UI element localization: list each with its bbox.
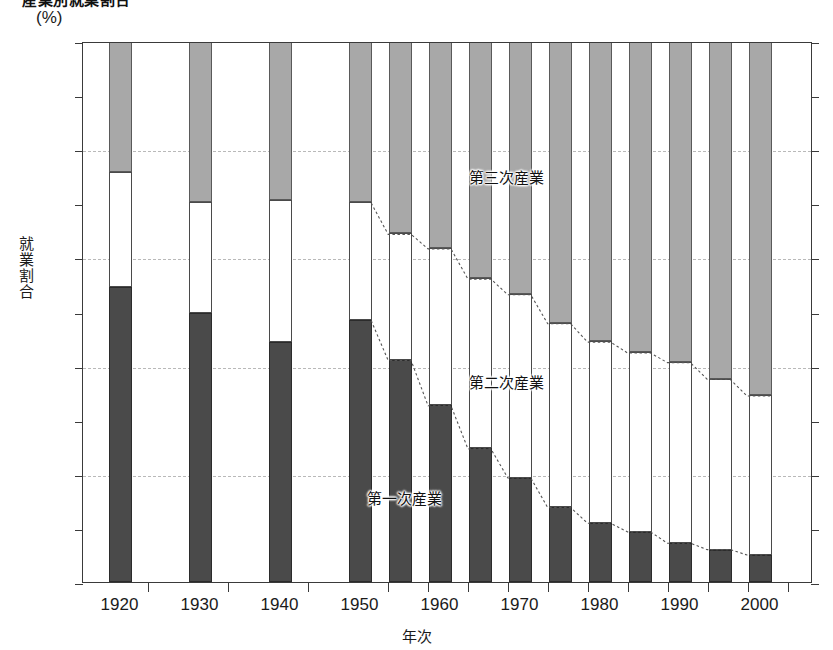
plot-area: 第三次産業第二次産業第一次産業 100806040200 xyxy=(82,42,812,583)
chart-page: 産業別就業割合 (%) 就業割合 第三次産業第二次産業第一次産業 1008060… xyxy=(0,0,833,650)
y-axis-tick xyxy=(75,205,83,206)
segment-primary xyxy=(189,313,212,582)
segment-primary xyxy=(749,555,772,582)
segment-primary xyxy=(629,532,652,582)
segment-tertiary xyxy=(469,43,492,278)
x-axis-tick xyxy=(628,583,629,592)
annotation-2: 第一次産業 xyxy=(367,487,442,508)
x-axis-label-1970: 1970 xyxy=(501,595,539,615)
segment-tertiary xyxy=(629,43,652,352)
segment-secondary xyxy=(589,341,612,523)
segment-tertiary xyxy=(349,43,372,202)
segment-secondary xyxy=(549,323,572,507)
y-axis-tick-right xyxy=(811,314,819,315)
y-axis-tick-right xyxy=(811,422,819,423)
segment-primary xyxy=(269,342,292,582)
y-axis-tick xyxy=(75,314,83,315)
segment-primary xyxy=(549,507,572,582)
segment-secondary xyxy=(429,248,452,405)
x-axis-label-1930: 1930 xyxy=(181,595,219,615)
x-axis-label-1940: 1940 xyxy=(261,595,299,615)
y-axis-title-char: 就 xyxy=(16,236,36,252)
segment-primary xyxy=(669,543,692,582)
plot-inner: 第三次産業第二次産業第一次産業 xyxy=(83,43,811,582)
bar-1965[interactable] xyxy=(469,43,492,582)
segment-secondary xyxy=(109,172,132,287)
x-axis-label-1920: 1920 xyxy=(101,595,139,615)
bar-1990[interactable] xyxy=(669,43,692,582)
x-axis-label-1950: 1950 xyxy=(341,595,379,615)
segment-tertiary xyxy=(189,43,212,202)
segment-secondary xyxy=(709,379,732,550)
segment-secondary xyxy=(669,362,692,543)
bar-1920[interactable] xyxy=(109,43,132,582)
y-axis-tick-right xyxy=(811,151,819,152)
x-axis-tick xyxy=(788,583,789,592)
x-axis-tick xyxy=(148,583,149,592)
bar-1995[interactable] xyxy=(709,43,732,582)
y-axis-tick-right xyxy=(811,43,819,44)
segment-tertiary xyxy=(269,43,292,200)
segment-tertiary xyxy=(429,43,452,248)
segment-secondary xyxy=(389,233,412,360)
y-axis-title: 就業割合 xyxy=(16,236,36,300)
segment-secondary xyxy=(189,202,212,313)
bar-1985[interactable] xyxy=(629,43,652,582)
segment-secondary xyxy=(349,202,372,320)
segment-primary xyxy=(509,478,532,582)
segment-tertiary xyxy=(669,43,692,362)
bar-2000[interactable] xyxy=(749,43,772,582)
segment-primary xyxy=(109,287,132,582)
y-axis-tick-right xyxy=(811,205,819,206)
y-axis-unit-label: (%) xyxy=(36,8,62,28)
x-axis-tick xyxy=(748,583,749,592)
y-axis-tick xyxy=(75,422,83,423)
x-axis-label-1960: 1960 xyxy=(421,595,459,615)
x-axis-label-1990: 1990 xyxy=(661,595,699,615)
x-axis-label-1980: 1980 xyxy=(581,595,619,615)
segment-tertiary xyxy=(109,43,132,172)
x-axis-tick xyxy=(308,583,309,592)
x-axis-tick xyxy=(588,583,589,592)
y-axis-tick-right xyxy=(811,368,819,369)
segment-primary xyxy=(469,448,492,582)
x-axis-tick xyxy=(428,583,429,592)
y-axis-tick xyxy=(75,43,83,44)
y-axis-tick xyxy=(75,151,83,152)
segment-secondary xyxy=(469,278,492,448)
x-axis-tick xyxy=(708,583,709,592)
x-axis-tick xyxy=(468,583,469,592)
bar-1970[interactable] xyxy=(509,43,532,582)
y-axis-tick xyxy=(75,530,83,531)
y-axis-title-char: 割 xyxy=(16,268,36,284)
bar-1940[interactable] xyxy=(269,43,292,582)
segment-tertiary xyxy=(589,43,612,341)
bar-1980[interactable] xyxy=(589,43,612,582)
y-axis-tick-right xyxy=(811,476,819,477)
segment-secondary xyxy=(629,352,652,532)
segment-secondary xyxy=(269,200,292,342)
segment-tertiary xyxy=(389,43,412,233)
y-axis-tick xyxy=(75,259,83,260)
segment-tertiary xyxy=(549,43,572,323)
x-axis-title: 年次 xyxy=(0,625,833,646)
y-axis-tick xyxy=(75,476,83,477)
segment-secondary xyxy=(749,395,772,555)
x-axis-label-2000: 2000 xyxy=(741,595,779,615)
y-axis-tick-right xyxy=(811,259,819,260)
y-axis-title-char: 合 xyxy=(16,284,36,300)
y-axis-tick-right xyxy=(811,97,819,98)
segment-tertiary xyxy=(749,43,772,395)
x-axis-tick xyxy=(548,583,549,592)
bar-1930[interactable] xyxy=(189,43,212,582)
bar-1975[interactable] xyxy=(549,43,572,582)
segment-primary xyxy=(589,523,612,582)
y-axis-tick xyxy=(75,97,83,98)
x-axis-tick xyxy=(388,583,389,592)
segment-tertiary xyxy=(709,43,732,379)
x-axis-tick xyxy=(668,583,669,592)
segment-primary xyxy=(389,360,412,582)
y-axis-tick xyxy=(75,368,83,369)
segment-primary xyxy=(349,320,372,582)
y-axis-title-char: 業 xyxy=(16,252,36,268)
